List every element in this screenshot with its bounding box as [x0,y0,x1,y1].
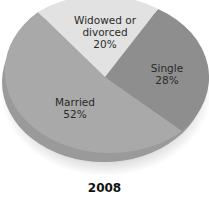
label-widowed: Widowed or divorced 20% [62,14,148,50]
label-widowed-pct: 20% [62,38,148,50]
label-single: Single 28% [142,62,192,86]
label-married-name: Married [46,96,104,108]
label-single-pct: 28% [142,74,192,86]
label-married-pct: 52% [46,108,104,120]
label-single-name: Single [142,62,192,74]
label-widowed-line1: Widowed or [62,14,148,26]
label-widowed-line2: divorced [62,26,148,38]
label-married: Married 52% [46,96,104,120]
chart-title: 2008 [0,181,209,195]
